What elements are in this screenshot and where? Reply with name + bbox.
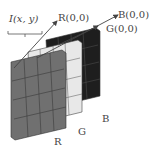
b-origin-label: B(0,0) xyxy=(118,9,149,20)
r-channel-label: R xyxy=(54,136,62,147)
r-channel-layer xyxy=(11,50,66,140)
b-channel-label: B xyxy=(102,113,109,124)
pixel-label: I(x, y) xyxy=(8,13,38,24)
rgb-channel-diagram: I(x, y) R(0,0) B(0,0) G(0,0) R G B xyxy=(0,0,151,154)
r-origin-label: R(0,0) xyxy=(58,12,89,23)
g-channel-label: G xyxy=(78,126,86,137)
pixel-brace xyxy=(8,31,42,37)
g-origin-label: G(0,0) xyxy=(106,23,138,34)
